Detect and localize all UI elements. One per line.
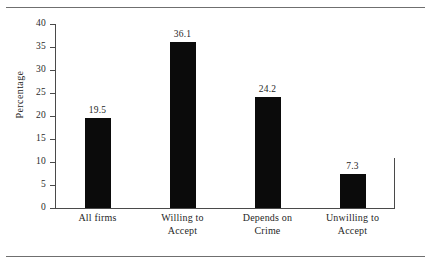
bottom-divider-rule (6, 256, 425, 257)
bar[interactable] (85, 118, 111, 208)
top-divider-rule (6, 7, 425, 8)
y-axis-tick-label: 35 (0, 42, 46, 52)
y-axis-tick-label: 20 (0, 111, 46, 121)
bar[interactable] (255, 97, 281, 208)
x-axis-category-label: All firms (55, 212, 140, 225)
y-axis-tick-label: 0 (0, 203, 46, 213)
bar[interactable] (340, 174, 366, 208)
x-axis-category-label: Willing toAccept (140, 212, 225, 237)
y-axis-tick-label: 25 (0, 88, 46, 98)
x-axis-category-label-line: Depends on (225, 212, 310, 225)
bar-slot: 7.3 (310, 24, 395, 208)
x-axis-category-label-line: Accept (140, 225, 225, 238)
bar-value-label: 7.3 (346, 161, 358, 171)
x-axis-category-label-line: Willing to (140, 212, 225, 225)
bar-slot: 36.1 (140, 24, 225, 208)
y-axis-tick-label: 40 (0, 19, 46, 29)
bar-slot: 19.5 (55, 24, 140, 208)
x-axis-category-label: Depends onCrime (225, 212, 310, 237)
x-axis-category-label-line: Crime (225, 225, 310, 238)
x-axis-category-label-line: All firms (55, 212, 140, 225)
bar-series: 19.536.124.27.3 (55, 24, 395, 208)
y-axis-tick-label: 5 (0, 180, 46, 190)
bar-value-label: 36.1 (174, 29, 191, 39)
bar-value-label: 19.5 (89, 105, 106, 115)
bar-value-label: 24.2 (259, 84, 276, 94)
y-axis-tick-label: 30 (0, 65, 46, 75)
y-axis-tick-label: 15 (0, 134, 46, 144)
x-axis-label-group: All firmsWilling toAcceptDepends onCrime… (55, 212, 395, 252)
y-axis-tick-label: 10 (0, 157, 46, 167)
x-axis-category-label-line: Unwilling to (310, 212, 395, 225)
x-axis-category-label: Unwilling toAccept (310, 212, 395, 237)
x-axis-category-label-line: Accept (310, 225, 395, 238)
figure-container: Percentage 0510152025303540 19.536.124.2… (0, 0, 431, 266)
bar-slot: 24.2 (225, 24, 310, 208)
x-axis-line (55, 208, 395, 209)
bar[interactable] (170, 42, 196, 208)
